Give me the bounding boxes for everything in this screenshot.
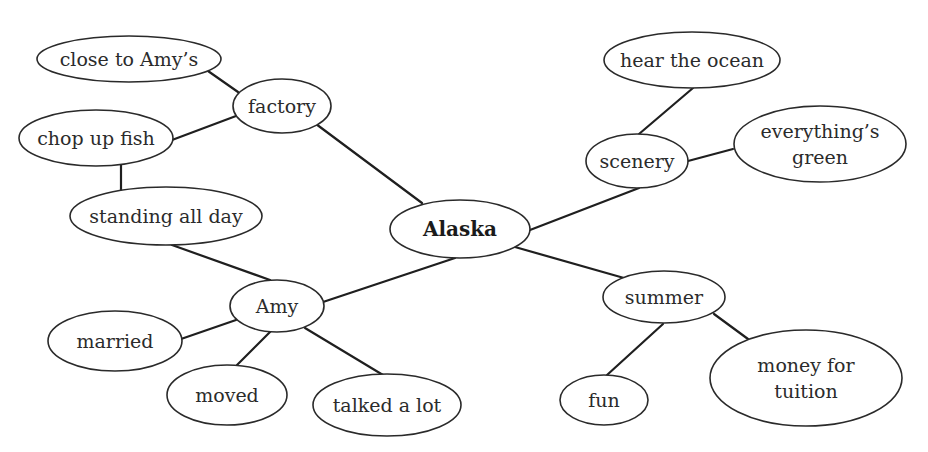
edge-scenery-to-everythings-green: [688, 149, 733, 161]
node-money-for-tuition: money fortuition: [710, 330, 902, 426]
edge-factory-to-close-to-amys: [208, 71, 238, 92]
node-label: chop up fish: [37, 127, 155, 149]
node-label: money for: [757, 354, 855, 376]
node-amy: Amy: [230, 280, 324, 332]
node-label: hear the ocean: [620, 49, 764, 71]
edge-standing-all-day-to-amy: [172, 245, 270, 280]
node-label: married: [77, 330, 154, 352]
node-summer: summer: [603, 271, 725, 323]
node-ellipse: [710, 330, 902, 426]
edge-scenery-to-hear-the-ocean: [639, 88, 693, 134]
node-label: Amy: [255, 295, 299, 317]
node-label: fun: [588, 389, 620, 411]
node-label: talked a lot: [333, 394, 442, 416]
node-chop-up-fish: chop up fish: [19, 110, 173, 166]
edge-alaska-to-summer: [515, 247, 624, 278]
edge-summer-to-money-for-tuition: [714, 314, 748, 339]
node-label: standing all day: [89, 205, 243, 227]
node-alaska: Alaska: [390, 200, 530, 258]
node-label: everything’s: [760, 120, 879, 142]
node-label: green: [792, 146, 848, 168]
edge-amy-to-married: [181, 320, 236, 339]
edge-alaska-to-scenery: [530, 188, 639, 230]
edge-alaska-to-factory: [316, 124, 422, 203]
node-label: factory: [248, 95, 316, 117]
edge-alaska-to-amy: [323, 258, 455, 302]
node-standing-all-day: standing all day: [70, 187, 262, 245]
node-close-to-amys: close to Amy’s: [37, 36, 221, 82]
node-label: scenery: [600, 150, 675, 172]
node-label: summer: [625, 286, 704, 308]
node-fun: fun: [560, 375, 648, 425]
node-scenery: scenery: [586, 134, 688, 188]
node-label: tuition: [774, 380, 837, 402]
node-moved: moved: [167, 365, 287, 425]
cluster-diagram: Alaskafactoryclose to Amy’schop up fishs…: [0, 0, 928, 452]
node-everythings-green: everything’sgreen: [734, 106, 906, 182]
edge-amy-to-moved: [237, 332, 270, 365]
node-label: moved: [195, 384, 259, 406]
topic-nodes: Alaskafactoryclose to Amy’schop up fishs…: [19, 32, 906, 436]
node-label: Alaska: [422, 217, 497, 241]
node-ellipse: [734, 106, 906, 182]
node-label: close to Amy’s: [60, 48, 199, 70]
node-married: married: [48, 311, 182, 371]
node-factory: factory: [233, 79, 331, 133]
edge-summer-to-fun: [607, 324, 663, 375]
node-talked-a-lot: talked a lot: [313, 374, 461, 436]
node-hear-the-ocean: hear the ocean: [604, 32, 780, 88]
edge-factory-to-chop-up-fish: [172, 116, 236, 140]
edge-amy-to-talked-a-lot: [305, 328, 383, 375]
